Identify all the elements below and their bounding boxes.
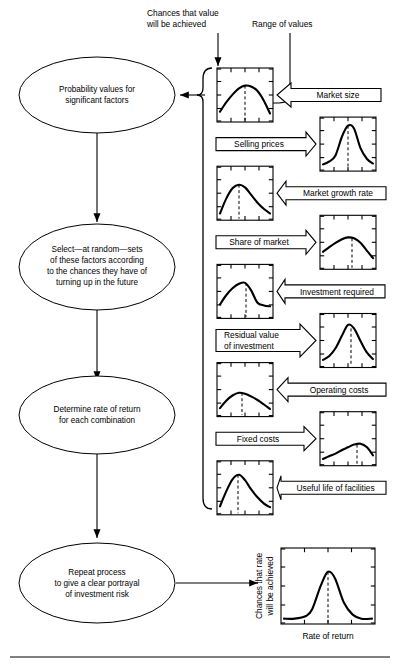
result-ylabel-line1: Chances that rate	[254, 553, 264, 619]
factor-label-text: Market size	[317, 90, 360, 100]
factor-label-residual-value[interactable]: Residual valueof investment	[216, 324, 316, 357]
factor-label-share-of-market[interactable]: Share of market	[216, 230, 316, 254]
factor-label-text: Useful life of facilities	[296, 483, 374, 493]
node-determine-line1: Determine rate of return	[54, 405, 141, 414]
result-chart-group: Rate of return Chances that rate will be…	[254, 548, 375, 641]
factor-label-text: Operating costs	[310, 385, 369, 395]
mini-chart-useful-life	[217, 461, 273, 515]
factor-label-operating-costs[interactable]: Operating costs	[277, 378, 386, 402]
factor-label-useful-life[interactable]: Useful life of facilities	[277, 476, 386, 500]
factor-label-fixed-costs[interactable]: Fixed costs	[216, 427, 316, 451]
factor-label-selling-prices[interactable]: Selling prices	[216, 132, 316, 156]
result-ylabel-line2: will be achieved	[265, 556, 275, 616]
annotation-chances-line1: Chances that value	[147, 8, 219, 18]
mini-chart-operating-costs	[217, 363, 273, 417]
mini-chart-selling-prices	[320, 117, 376, 171]
factor-label-text: Residual value	[224, 330, 279, 340]
factor-label-market-size[interactable]: Market size	[277, 83, 381, 107]
factor-label-text: Investment required	[300, 287, 374, 297]
factor-label-text: Share of market	[229, 237, 289, 247]
mini-chart-investment-required	[217, 264, 273, 318]
factor-label-text: Market growth rate	[303, 188, 373, 198]
node-select-at-random[interactable]: Select—at random—sets of these factors a…	[19, 224, 175, 310]
mini-chart-rate-of-return-distribution	[281, 548, 375, 624]
result-xlabel: Rate of return	[302, 631, 354, 641]
node-probability-values[interactable]: Probability values for significant facto…	[19, 57, 175, 133]
factor-label-text: Fixed costs	[237, 434, 279, 444]
mini-chart-residual-value	[320, 314, 376, 368]
factors-brace	[197, 68, 212, 509]
mini-chart-share-of-market	[320, 215, 376, 269]
annotation-chances-that-value: Chances that value will be achieved	[146, 8, 219, 66]
factor-label-text: of investment	[224, 341, 274, 351]
node-repeat-process[interactable]: Repeat process to give a clear portrayal…	[19, 543, 175, 623]
node-select-line3: to the chances they have of	[47, 267, 148, 276]
node-repeat-line2: to give a clear portrayal	[54, 579, 139, 588]
investment-risk-flowchart: Chances that value will be achieved Rang…	[0, 0, 400, 667]
node-determine-rate[interactable]: Determine rate of return for each combin…	[19, 376, 175, 454]
mini-chart-fixed-costs	[320, 412, 376, 466]
annotation-chances-line2: will be achieved	[146, 19, 206, 29]
node-probability-values-line2: significant factors	[65, 96, 128, 105]
factor-label-text: Selling prices	[234, 139, 284, 149]
node-select-line2: of these factors according	[50, 256, 144, 265]
node-determine-line2: for each combination	[59, 416, 135, 425]
node-select-line1: Select—at random—sets	[51, 245, 142, 254]
node-repeat-line3: of investment risk	[65, 590, 130, 599]
mini-chart-market-size	[217, 68, 273, 122]
diagram-canvas: Chances that value will be achieved Rang…	[0, 0, 400, 667]
node-select-line4: turning up in the future	[56, 278, 138, 287]
factor-label-market-growth-rate[interactable]: Market growth rate	[277, 181, 386, 205]
annotation-range-label: Range of values	[252, 19, 313, 29]
factor-charts-layer: Market sizeSelling pricesMarket growth r…	[216, 68, 386, 515]
node-repeat-line1: Repeat process	[68, 568, 125, 577]
factor-label-investment-required[interactable]: Investment required	[277, 279, 385, 303]
node-probability-values-line1: Probability values for	[59, 85, 135, 94]
mini-chart-market-growth-rate	[217, 166, 273, 220]
